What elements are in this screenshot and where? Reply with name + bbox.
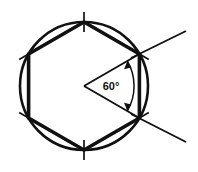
central-angle-label: 60° xyxy=(103,80,120,92)
angle-arc-path xyxy=(127,61,134,111)
central-angle-arc xyxy=(124,61,134,111)
geometry-figure: 60° xyxy=(0,0,198,172)
figure-canvas: 60° xyxy=(0,0,198,172)
